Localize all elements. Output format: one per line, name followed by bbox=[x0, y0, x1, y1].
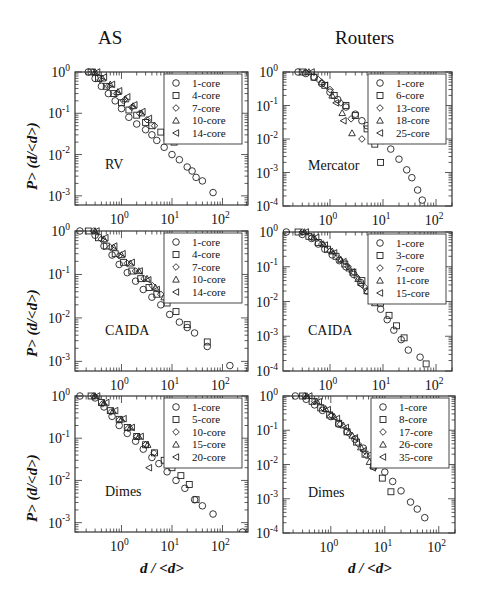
panel-routers-dimes: 10010110210010-110-210-310-41-core8-core… bbox=[256, 387, 455, 555]
legend-label: 1-core bbox=[192, 77, 220, 89]
panel-routers-mercator: 10010110210010-110-210-310-41-core6-core… bbox=[256, 63, 452, 228]
x-tick-label: 100 bbox=[110, 210, 129, 227]
x-tick-label: 102 bbox=[425, 211, 444, 228]
y-tick-label: 10-4 bbox=[256, 197, 278, 214]
data-point bbox=[389, 478, 396, 485]
y-tick-label: 100 bbox=[259, 387, 278, 404]
y-tick-label: 10-2 bbox=[48, 309, 70, 326]
data-point bbox=[101, 243, 108, 250]
data-point bbox=[133, 121, 140, 128]
legend-label: 20-core bbox=[192, 451, 226, 463]
legend-label: 4-core bbox=[192, 248, 220, 260]
legend-label: 7-core bbox=[192, 102, 220, 114]
legend-label: 3-core bbox=[396, 249, 424, 261]
x-tick-label: 100 bbox=[319, 376, 338, 393]
y-tick-label: 10-1 bbox=[48, 429, 70, 446]
legend-label: 10-core bbox=[192, 426, 226, 438]
y-tick-label: 10-2 bbox=[48, 471, 70, 488]
data-point bbox=[339, 110, 346, 116]
data-point bbox=[191, 496, 198, 503]
x-tick-label: 101 bbox=[161, 537, 180, 554]
legend: 1-core3-core7-core11-core15-core bbox=[368, 234, 446, 304]
x-tick-label: 101 bbox=[372, 211, 391, 228]
dataset-annotation: CAIDA bbox=[105, 323, 150, 338]
legend-label: 1-core bbox=[396, 77, 424, 89]
legend-label: 1-core bbox=[192, 236, 220, 248]
data-point bbox=[204, 343, 211, 350]
data-point bbox=[409, 174, 416, 181]
y-tick-label: 10-4 bbox=[256, 362, 278, 379]
y-tick-label: 10-2 bbox=[256, 292, 278, 309]
data-point bbox=[359, 117, 366, 124]
x-tick-label: 102 bbox=[427, 538, 446, 555]
legend: 1-core8-core17-core26-core35-core bbox=[371, 398, 449, 468]
data-point bbox=[193, 174, 200, 181]
y-tick-label: 10-3 bbox=[256, 327, 278, 344]
data-point bbox=[340, 117, 346, 124]
y-tick-label: 10-1 bbox=[48, 265, 70, 282]
data-point bbox=[349, 130, 356, 136]
legend-label: 5-core bbox=[192, 413, 220, 425]
data-point bbox=[352, 111, 359, 118]
data-point bbox=[387, 146, 394, 153]
panel-as-dimes: 10010110210010-110-210-31-core5-core10-c… bbox=[48, 387, 248, 554]
y-tick-label: 10-2 bbox=[256, 130, 278, 147]
data-point bbox=[340, 258, 346, 265]
dataset-annotation: RV bbox=[105, 157, 123, 172]
x-tick-label: 101 bbox=[161, 376, 180, 393]
y-tick-label: 10-2 bbox=[256, 455, 278, 472]
data-point bbox=[405, 347, 412, 354]
data-point bbox=[378, 159, 384, 165]
dataset-annotation: Dimes bbox=[105, 484, 142, 499]
data-point bbox=[124, 269, 131, 276]
data-point bbox=[149, 132, 156, 139]
y-tick-label: 100 bbox=[51, 387, 70, 404]
y-tick-label: 100 bbox=[51, 222, 70, 239]
data-point bbox=[119, 100, 125, 106]
data-point bbox=[191, 330, 198, 337]
legend-label: 14-core bbox=[192, 127, 226, 139]
legend-label: 15-core bbox=[396, 287, 430, 299]
panel-as-caida: 10010110210010-110-210-31-core4-core7-co… bbox=[48, 222, 248, 393]
x-tick-label: 102 bbox=[211, 537, 230, 554]
legend: 1-core4-core7-core10-core14-core bbox=[164, 233, 242, 303]
y-tick-label: 10-2 bbox=[48, 145, 70, 162]
x-tick-label: 101 bbox=[372, 376, 391, 393]
data-point bbox=[377, 306, 384, 313]
data-point bbox=[166, 311, 173, 318]
data-point bbox=[398, 488, 405, 495]
data-point bbox=[189, 168, 196, 175]
data-point bbox=[414, 506, 421, 513]
data-point bbox=[403, 167, 410, 174]
data-point bbox=[126, 114, 133, 121]
legend-label: 1-core bbox=[396, 237, 424, 249]
legend-label: 14-core bbox=[192, 286, 226, 298]
data-point bbox=[182, 485, 189, 492]
legend-label: 11-core bbox=[396, 274, 429, 286]
data-point bbox=[173, 477, 180, 484]
legend: 1-core5-core10-core15-core20-core bbox=[164, 398, 242, 468]
data-point bbox=[423, 361, 429, 367]
legend-label: 10-core bbox=[192, 273, 226, 285]
data-point bbox=[112, 98, 119, 105]
y-tick-label: 10-1 bbox=[256, 96, 278, 113]
panel-routers-caida: 10010110210010-110-210-310-41-core3-core… bbox=[256, 223, 452, 393]
x-tick-label: 101 bbox=[161, 210, 180, 227]
data-point bbox=[118, 105, 125, 112]
y-tick-label: 10-1 bbox=[256, 257, 278, 274]
data-point bbox=[379, 475, 385, 481]
data-point bbox=[146, 464, 152, 471]
data-point bbox=[227, 362, 234, 369]
x-tick-label: 101 bbox=[373, 538, 392, 555]
legend-label: 6-core bbox=[396, 89, 424, 101]
legend-label: 8-core bbox=[399, 413, 427, 425]
figure-canvas: 10010110210010-110-210-31-core4-core7-co… bbox=[0, 0, 480, 599]
legend-label: 1-core bbox=[399, 401, 427, 413]
y-tick-label: 10-3 bbox=[256, 163, 278, 180]
legend-label: 18-core bbox=[396, 114, 430, 126]
data-point bbox=[407, 499, 414, 506]
data-point bbox=[381, 469, 388, 476]
x-tick-label: 102 bbox=[425, 376, 444, 393]
data-point bbox=[414, 187, 421, 194]
x-tick-label: 100 bbox=[110, 537, 129, 554]
